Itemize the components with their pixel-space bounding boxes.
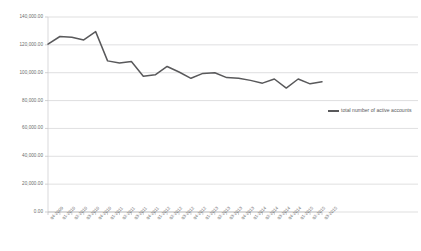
y-axis-tick-label: 120,000.00 [20, 42, 44, 47]
y-axis-tick-label: 40,000.00 [22, 153, 43, 158]
y-axis-tick-label: 80,000.00 [22, 98, 43, 103]
y-axis-tick-label: 100,000.00 [20, 70, 44, 75]
legend-label: total number of active accounts [341, 107, 412, 115]
legend-line-swatch [328, 110, 339, 112]
line-chart: 140,000.00120,000.00100,000.0080,000.006… [0, 0, 421, 251]
data-series-line [48, 32, 322, 88]
chart-legend: total number of active accounts [328, 107, 418, 115]
y-axis-tick-label: 0.00 [34, 209, 43, 214]
y-axis-tick-label: 60,000.00 [22, 125, 43, 130]
y-axis-tick-label: 140,000.00 [20, 14, 44, 19]
chart-axes [48, 17, 322, 212]
y-axis-tick-label: 20,000.00 [22, 181, 43, 186]
